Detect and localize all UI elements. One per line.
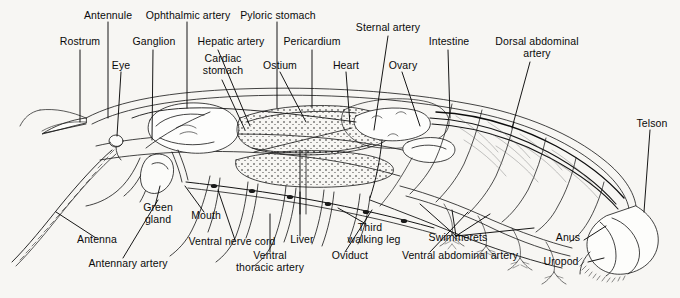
label-third-walking-leg-line2: walking leg [336,234,412,246]
label-mouth: Mouth [182,210,230,222]
label-pericardium: Pericardium [266,36,358,48]
label-ventral-thoracic-artery-line1: Ventral [232,250,308,262]
label-antennary-artery: Antennary artery [78,258,178,270]
label-ostium: Ostium [250,60,310,72]
label-dorsal-abdominal-artery-line1: Dorsal abdominal [482,36,592,48]
label-green-gland-line1: Green [134,202,182,214]
label-oviduct: Oviduct [322,250,378,262]
label-green-gland-line2: gland [134,214,182,226]
label-dorsal-abdominal-artery-line2: artery [482,48,592,60]
label-uropod: Uropod [534,256,588,268]
label-ovary: Ovary [380,60,426,72]
label-anus: Anus [548,232,588,244]
label-pyloric-stomach: Pyloric stomach [222,10,334,22]
label-heart: Heart [322,60,370,72]
label-eye: Eye [102,60,140,72]
label-antenna: Antenna [66,234,128,246]
label-rostrum: Rostrum [38,36,122,48]
label-intestine: Intestine [414,36,484,48]
label-liver: Liver [282,234,322,246]
label-swimmerets: Swimmerets [418,232,498,244]
label-third-walking-leg-line1: Third [348,222,392,234]
label-telson: Telson [628,118,676,130]
label-ventral-abdominal-artery: Ventral abdominal artery [386,250,534,262]
anatomy-figure: Antennule Rostrum Eye Ganglion Ophthalmi… [0,0,680,298]
label-sternal-artery: Sternal artery [336,22,440,34]
label-ventral-thoracic-artery-line2: thoracic artery [216,262,324,274]
